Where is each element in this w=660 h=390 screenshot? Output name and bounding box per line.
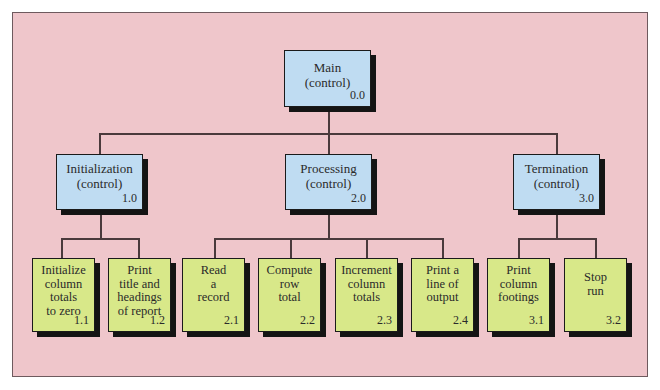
module-number: 3.2: [606, 313, 621, 328]
module-2-4: Print a line of output 2.4: [411, 258, 474, 332]
connector-to-2-2: [290, 238, 292, 258]
connector-to-2-4: [442, 238, 444, 258]
module-label: Compute row total: [259, 259, 320, 305]
module-number: 1.0: [122, 191, 137, 206]
module-label: Increment column totals: [336, 259, 397, 305]
connector-to-3-1: [518, 238, 520, 258]
connector-term-down: [556, 210, 558, 239]
connector-init-down: [100, 210, 102, 239]
module-number: 1.1: [74, 313, 89, 328]
module-label: Initialization (control): [57, 155, 142, 191]
module-2-2: Compute row total 2.2: [258, 258, 321, 332]
module-number: 1.2: [150, 313, 165, 328]
module-label: Termination (control): [514, 155, 599, 191]
module-termination: Termination (control) 3.0: [513, 154, 600, 210]
module-number: 2.3: [377, 313, 392, 328]
module-initialization: Initialization (control) 1.0: [56, 154, 143, 210]
module-number: 0.0: [350, 88, 365, 103]
module-number: 2.4: [453, 313, 468, 328]
connector-to-termination: [556, 133, 558, 154]
connector-to-1-1: [61, 238, 63, 258]
module-3-2: Stop run 3.2: [564, 258, 627, 332]
module-number: 2.0: [351, 191, 366, 206]
connector-to-1-2: [138, 238, 140, 258]
connector-root-down: [328, 107, 330, 134]
module-1-1: Initialize column totals to zero 1.1: [32, 258, 95, 332]
module-number: 2.2: [300, 313, 315, 328]
module-label: Main (control): [285, 51, 370, 90]
module-label: Print column footings: [488, 259, 549, 305]
module-2-3: Increment column totals 2.3: [335, 258, 398, 332]
module-label: Initialize column totals to zero: [33, 259, 94, 318]
connector-proc-down: [328, 210, 330, 239]
module-label: Read a record: [183, 259, 244, 305]
connector-to-init: [99, 133, 101, 154]
connector-to-2-3: [366, 238, 368, 258]
connector-to-2-1: [214, 238, 216, 258]
connector-to-3-2: [595, 238, 597, 258]
module-label: Print a line of output: [412, 259, 473, 305]
connector-init-bar: [61, 238, 139, 240]
connector-to-processing: [328, 133, 330, 154]
module-processing: Processing (control) 2.0: [285, 154, 372, 210]
module-main: Main (control) 0.0: [284, 50, 371, 107]
module-label: Print title and headings of report: [109, 259, 170, 318]
module-label: Stop run: [565, 259, 626, 298]
connector-term-bar: [518, 238, 596, 240]
module-label: Processing (control): [286, 155, 371, 191]
connector-proc-bar: [214, 238, 443, 240]
module-2-1: Read a record 2.1: [182, 258, 245, 332]
module-number: 3.1: [529, 313, 544, 328]
module-1-2: Print title and headings of report 1.2: [108, 258, 171, 332]
module-number: 2.1: [224, 313, 239, 328]
module-3-1: Print column footings 3.1: [487, 258, 550, 332]
module-number: 3.0: [579, 191, 594, 206]
